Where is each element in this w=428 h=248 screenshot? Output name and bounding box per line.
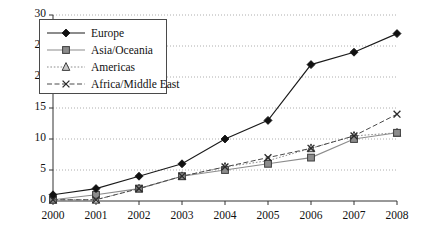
y-axis-tick-label: 30 — [14, 7, 46, 19]
data-point-marker — [265, 160, 272, 167]
legend-item-americas: Americas — [45, 58, 161, 75]
x-axis-tick-label: 2000 — [31, 209, 75, 221]
data-point-marker — [178, 160, 186, 168]
data-point-marker — [350, 48, 358, 56]
legend-item-europe: Europe — [45, 24, 161, 41]
data-point-marker — [394, 111, 401, 118]
legend-item-asia-oceania: Asia/Oceania — [45, 41, 161, 58]
series-africa-middle-east — [50, 111, 401, 203]
line-chart: 051015202530 200020012002200320042005200… — [0, 0, 428, 248]
data-point-marker — [393, 30, 401, 38]
y-axis-tick-label: 15 — [14, 100, 46, 112]
legend-swatch-icon — [45, 26, 87, 40]
x-axis-tick-label: 2005 — [246, 209, 290, 221]
data-point-marker — [62, 29, 70, 37]
legend-item-africa-middle-east: Africa/Middle East — [45, 75, 161, 92]
x-axis-tick-label: 2003 — [160, 209, 204, 221]
data-point-marker — [394, 129, 401, 136]
legend-swatch-icon — [45, 60, 87, 74]
x-axis-tick-label: 2002 — [117, 209, 161, 221]
data-point-marker — [221, 135, 229, 143]
x-axis-tick-label: 2001 — [74, 209, 118, 221]
legend-swatch-icon — [45, 77, 87, 91]
legend-item-label: Europe — [87, 26, 124, 40]
y-axis-tick-label: 10 — [14, 131, 46, 143]
y-axis-tick-label: 5 — [14, 162, 46, 174]
chart-legend: EuropeAsia/OceaniaAmericasAfrica/Middle … — [39, 19, 167, 94]
legend-item-label: Americas — [87, 60, 135, 74]
y-axis-tick-label: 0 — [14, 193, 46, 205]
legend-swatch-icon — [45, 43, 87, 57]
x-axis-tick-label: 2006 — [289, 209, 333, 221]
data-point-marker — [135, 172, 143, 180]
data-point-marker — [308, 154, 315, 161]
data-point-marker — [63, 46, 70, 53]
x-axis-tick-label: 2007 — [332, 209, 376, 221]
legend-item-label: Africa/Middle East — [87, 77, 179, 91]
legend-item-label: Asia/Oceania — [87, 43, 153, 57]
x-axis-tick-label: 2004 — [203, 209, 247, 221]
x-axis-tick-label: 2008 — [375, 209, 419, 221]
